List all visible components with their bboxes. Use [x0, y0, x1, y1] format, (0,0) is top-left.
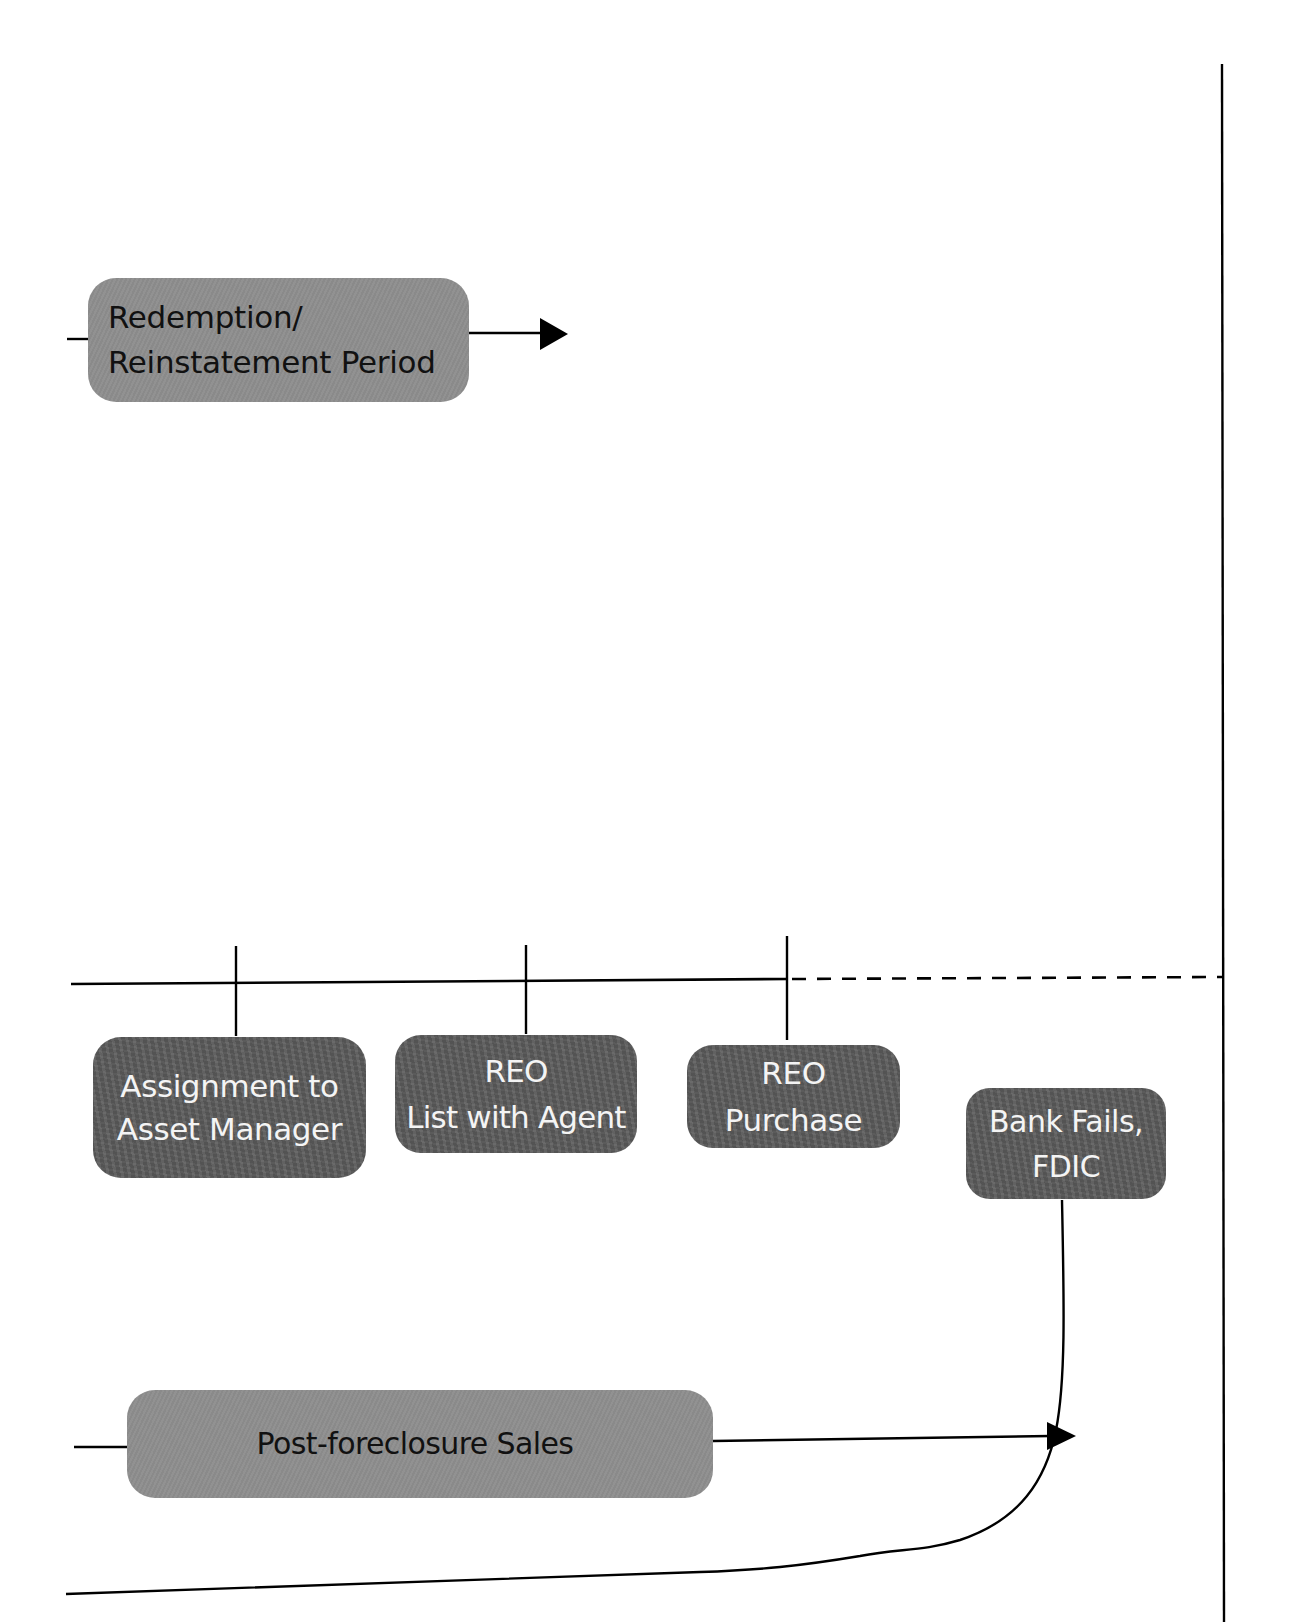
node-label-line: Asset Manager	[117, 1108, 342, 1151]
node-label-line: Reinstatement Period	[108, 340, 469, 385]
timeline-solid-line	[71, 979, 787, 984]
node-label-line: Bank Fails,	[989, 1099, 1143, 1144]
assignment-to-asset-manager-node: Assignment to Asset Manager	[93, 1037, 366, 1178]
bank-fails-fdic-node: Bank Fails, FDIC	[966, 1088, 1166, 1199]
post-foreclosure-sales-node: Post-foreclosure Sales	[127, 1390, 713, 1498]
redemption-reinstatement-period-node: Redemption/ Reinstatement Period	[88, 278, 469, 402]
post-foreclosure-output-line	[713, 1436, 1050, 1441]
node-label-line: FDIC	[1032, 1144, 1100, 1189]
timeline-dashed-line	[792, 977, 1222, 979]
node-label-line: Assignment to	[120, 1065, 338, 1108]
reo-purchase-node: REO Purchase	[687, 1045, 900, 1148]
node-label-line: Purchase	[725, 1097, 863, 1144]
node-label-line: REO	[761, 1050, 825, 1097]
reo-list-with-agent-node: REO List with Agent	[395, 1035, 637, 1153]
node-label-line: Post-foreclosure Sales	[257, 1423, 574, 1464]
node-label-line: Redemption/	[108, 295, 469, 340]
diagram-connectors	[0, 0, 1292, 1622]
right-boundary-line	[1222, 64, 1224, 1622]
node-label-line: List with Agent	[406, 1094, 625, 1141]
redemption-arrowhead-icon	[540, 318, 568, 350]
node-label-line: REO	[484, 1048, 547, 1095]
